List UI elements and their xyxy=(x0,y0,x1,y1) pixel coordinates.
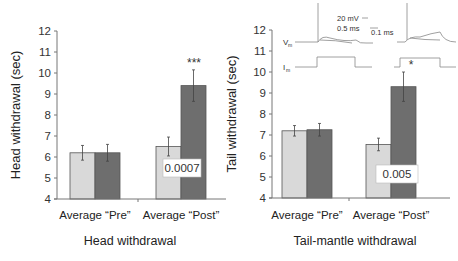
y-tick-label: 5 xyxy=(45,172,51,184)
svg-text:I: I xyxy=(283,63,285,72)
y-tick-label: 8 xyxy=(260,108,266,120)
svg-text:20 mV: 20 mV xyxy=(337,14,359,23)
significance-marker: * xyxy=(409,58,414,72)
y-axis-title: Head withdrawal (sec) xyxy=(8,51,23,180)
figure: Average “Pre”Average “Post”456789101112H… xyxy=(0,0,458,261)
category-label: Average “Post” xyxy=(143,209,220,221)
category-label: Average “Pre” xyxy=(271,209,343,221)
y-tick-label: 4 xyxy=(45,193,52,205)
y-tick-label: 12 xyxy=(253,24,266,36)
svg-text:m: m xyxy=(288,42,292,48)
bar xyxy=(282,131,307,198)
y-tick-label: 7 xyxy=(260,129,266,141)
y-tick-label: 8 xyxy=(45,109,51,121)
chart-canvas: Average “Pre”Average “Post”456789101112H… xyxy=(0,0,458,261)
p-value-label: 0.0007 xyxy=(164,162,199,174)
chart-panel-1: Average “Pre”Average “Post”456789101112H… xyxy=(8,25,226,248)
y-tick-label: 6 xyxy=(45,151,51,163)
svg-text:0.1 ms: 0.1 ms xyxy=(371,28,394,37)
bar xyxy=(181,86,206,199)
chart-panel-2: Average “Pre”Average “Post”456789101112T… xyxy=(224,3,456,248)
p-value-label: 0.005 xyxy=(383,168,412,180)
y-tick-label: 10 xyxy=(38,67,51,79)
svg-text:0.5 ms: 0.5 ms xyxy=(337,24,360,33)
y-tick-label: 4 xyxy=(260,192,267,204)
y-tick-label: 10 xyxy=(253,66,266,78)
y-tick-label: 12 xyxy=(38,25,51,37)
category-label: Average “Pre” xyxy=(59,209,131,221)
y-tick-label: 7 xyxy=(45,130,51,142)
y-tick-label: 6 xyxy=(260,150,266,162)
y-tick-label: 11 xyxy=(254,45,266,57)
y-tick-label: 11 xyxy=(39,46,51,58)
y-tick-label: 9 xyxy=(45,88,51,100)
y-axis-title: Tail withdrawal (sec) xyxy=(224,55,239,172)
bar xyxy=(307,130,332,198)
y-tick-label: 5 xyxy=(260,171,266,183)
y-tick-label: 9 xyxy=(260,87,266,99)
category-label: Average “Post” xyxy=(353,209,430,221)
svg-text:m: m xyxy=(286,67,290,73)
x-axis-title: Head withdrawal xyxy=(84,234,176,248)
x-axis-title: Tail-mantle withdrawal xyxy=(294,234,417,248)
significance-marker: *** xyxy=(187,56,201,70)
